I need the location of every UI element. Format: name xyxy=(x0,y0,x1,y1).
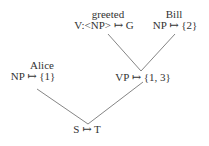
edge-alice-s xyxy=(37,89,88,124)
node-vp: VP ↦ {1, 3} xyxy=(115,71,170,83)
node-s: S ↦ T xyxy=(73,123,101,135)
node-bill: Bill NP ↦ {2} xyxy=(153,8,197,31)
edge-bill-vp xyxy=(141,34,175,71)
edge-vp-s xyxy=(88,82,143,124)
parse-tree-diagram: greeted V:<NP> ↦ G Bill NP ↦ {2} Alice N… xyxy=(0,0,209,146)
node-label: V:<NP> ↦ G xyxy=(74,19,133,31)
node-alice: Alice NP ↦ {1} xyxy=(11,59,55,82)
edge-greeted-vp xyxy=(108,34,141,71)
node-label: NP ↦ {1} xyxy=(11,70,55,82)
node-greeted: greeted V:<NP> ↦ G xyxy=(74,8,133,31)
node-label: VP ↦ {1, 3} xyxy=(115,71,170,83)
node-label: NP ↦ {2} xyxy=(153,19,197,31)
node-label: S ↦ T xyxy=(73,123,101,135)
